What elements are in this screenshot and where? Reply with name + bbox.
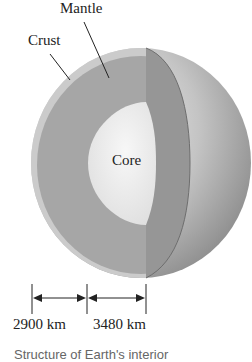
crust-leader-line <box>50 54 70 80</box>
dimension-markers <box>32 284 146 314</box>
core-label: Core <box>112 152 141 169</box>
mantle-label: Mantle <box>60 0 103 17</box>
core-radius-label: 3480 km <box>93 316 146 333</box>
mantle-thickness-label: 2900 km <box>13 316 66 333</box>
crust-label: Crust <box>28 32 61 49</box>
figure-caption: Structure of Earth's interior <box>14 347 168 362</box>
